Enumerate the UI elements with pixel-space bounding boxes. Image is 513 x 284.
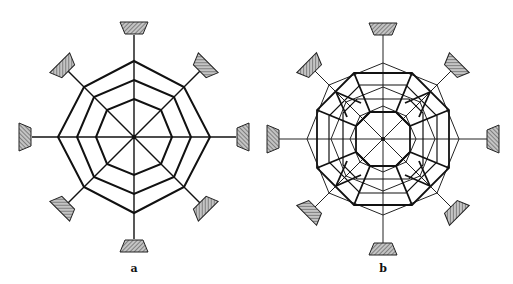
panel-label-b: b: [379, 262, 387, 275]
panel-a: [19, 22, 249, 252]
panel-label-a: a: [130, 262, 137, 275]
structural-diagram: [0, 0, 513, 284]
center-node: [132, 135, 136, 139]
panel-b: [267, 23, 499, 255]
center-node-b: [381, 137, 385, 141]
